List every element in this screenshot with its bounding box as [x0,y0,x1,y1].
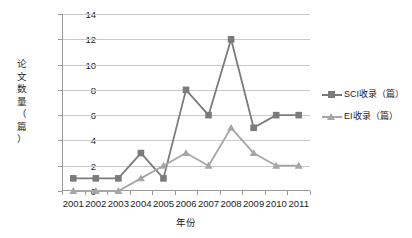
legend-label: SCI收录（篇） [344,88,404,100]
data-point-marker [93,175,100,182]
legend-square-icon [322,89,342,99]
chart-container: 论文数量（篇） 02468101214 20012002200320042005… [0,0,412,238]
data-point-marker [138,150,145,157]
data-point-marker [205,112,212,119]
legend-triangle-icon [322,111,342,121]
data-point-marker [205,162,213,169]
series-ei [69,124,302,194]
data-point-marker [137,174,145,181]
data-point-marker [160,175,167,182]
series-line [73,128,298,191]
data-point-marker [273,112,280,119]
series-line [73,39,298,178]
legend-item-sci[interactable]: SCI收录（篇） [322,88,404,100]
data-point-marker [115,175,122,182]
data-point-marker [227,124,235,131]
legend: SCI收录（篇）EI收录（篇） [322,88,404,132]
data-point-marker [182,149,190,156]
legend-item-ei[interactable]: EI收录（篇） [322,110,404,122]
legend-label: EI收录（篇） [344,110,398,122]
data-point-marker [228,36,235,43]
data-point-marker [250,124,257,131]
data-point-marker [295,112,302,119]
data-point-marker [183,87,190,94]
data-point-marker [70,175,77,182]
